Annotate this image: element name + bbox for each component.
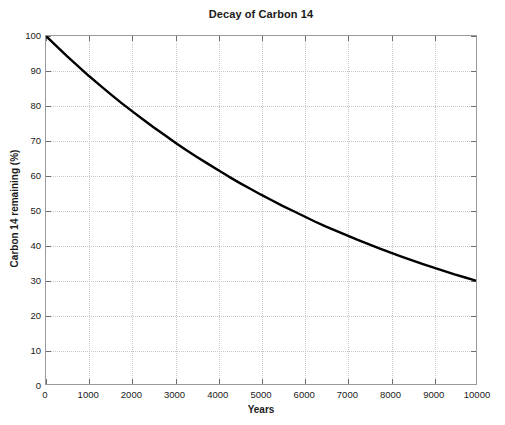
y-tick-label: 90: [1, 65, 41, 76]
x-axis-tick-labels: 0100020003000400050006000700080009000100…: [45, 389, 477, 403]
y-tick-label: 100: [1, 30, 41, 41]
y-tick-label: 20: [1, 310, 41, 321]
y-axis-tick-labels: 0102030405060708090100: [0, 35, 41, 385]
y-tick-label: 80: [1, 100, 41, 111]
decay-curve-svg: [46, 36, 476, 384]
y-tick-label: 40: [1, 240, 41, 251]
y-tick-label: 60: [1, 170, 41, 181]
decay-curve-line: [46, 36, 476, 281]
plot-area: [45, 35, 477, 385]
plot-inner: [46, 36, 476, 384]
y-tick-label: 70: [1, 135, 41, 146]
x-axis-title: Years: [45, 404, 477, 415]
y-tick-label: 50: [1, 205, 41, 216]
chart-title: Decay of Carbon 14: [45, 8, 477, 20]
y-tick-label: 10: [1, 345, 41, 356]
x-tick-label: 10000: [447, 389, 505, 400]
chart-figure: Decay of Carbon 14 Carbon 14 remaining (…: [0, 0, 505, 425]
y-tick-label: 30: [1, 275, 41, 286]
